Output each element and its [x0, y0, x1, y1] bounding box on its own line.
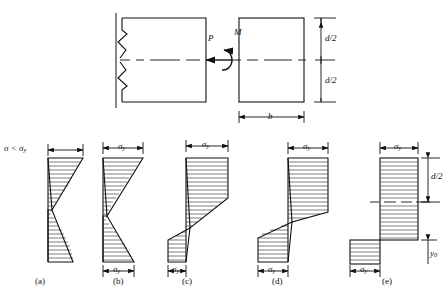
panel-b-lower-stress-block: [103, 216, 134, 262]
width-label: b: [268, 112, 273, 121]
depth-lower-label: d/2: [325, 76, 337, 85]
panel-e-stress-diagram: [350, 142, 440, 277]
break-mark-upper-icon: [118, 18, 127, 58]
panel-e-bottom-label: σy: [360, 265, 367, 275]
moment-label: M: [234, 28, 242, 37]
axial-load-label: P: [208, 34, 214, 43]
panel-c-upper-stress-block: [186, 158, 228, 228]
panel-c-lower-stress-block: [168, 228, 190, 262]
top-beam-section: [116, 13, 336, 123]
panel-c-top-label: σy: [202, 140, 209, 150]
panel-a-caption: (a): [35, 277, 45, 286]
panel-e-caption: (e): [382, 277, 392, 286]
panel-e-y0-label: y0: [430, 249, 437, 259]
depth-upper-label: d/2: [325, 34, 337, 43]
depth-dimension-ticks: [314, 18, 336, 102]
panel-b-stress-diagram: [103, 142, 143, 277]
panel-e-depth-label: d/2: [431, 172, 443, 181]
panel-e-top-label: σy: [394, 142, 401, 152]
panel-c-hatching: [168, 162, 228, 260]
panel-e-hatching: [350, 162, 418, 260]
break-mark-lower-icon: [118, 62, 127, 102]
panel-d-hatching: [258, 162, 328, 258]
panel-d-caption: (d): [272, 277, 283, 286]
figure-canvas: [0, 0, 447, 293]
panel-d-top-label: σy: [303, 142, 310, 152]
panel-e-upper-stress-block: [380, 158, 418, 240]
panel-d-bottom-label: σy: [268, 265, 275, 275]
panel-a-stress-diagram: [48, 144, 83, 262]
panel-d-stress-diagram: [258, 142, 328, 277]
panel-b-top-label: σy: [118, 142, 125, 152]
panel-b-hatching: [103, 162, 140, 260]
panel-c-bottom-label: σy: [172, 265, 179, 275]
panel-b-upper-stress-block: [103, 158, 143, 216]
panel-b-bottom-label: σy: [113, 265, 120, 275]
panel-c-stress-diagram: [168, 140, 228, 277]
panel-c-caption: (c): [182, 277, 192, 286]
panel-b-caption: (b): [113, 277, 124, 286]
panel-a-hatching: [48, 162, 80, 258]
panel-a-top-label: σ < σy: [4, 144, 26, 154]
